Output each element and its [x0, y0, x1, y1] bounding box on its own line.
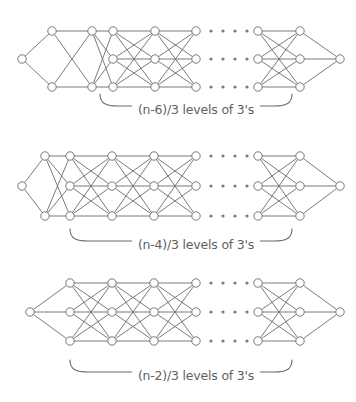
graph-edge: [22, 156, 45, 186]
ellipsis-dot: [209, 310, 212, 313]
graph-node: [296, 308, 304, 316]
graph-node: [192, 279, 200, 287]
diagram-3-caption: (n-2)/3 levels of 3's: [138, 368, 254, 383]
graph-node: [296, 27, 304, 35]
graph-node: [254, 55, 262, 63]
graph-node: [150, 212, 158, 220]
graph-node: [88, 27, 96, 35]
graph-edge: [92, 31, 113, 59]
graph-node: [41, 212, 49, 220]
graph-node: [66, 308, 74, 316]
ellipsis-dot: [233, 214, 236, 217]
graph-node: [108, 152, 116, 160]
graph-node: [296, 83, 304, 91]
graph-node: [48, 83, 56, 91]
ellipsis-dot: [209, 281, 212, 284]
graph-node: [66, 152, 74, 160]
ellipsis-dot: [245, 29, 248, 32]
ellipsis-dot: [233, 281, 236, 284]
graph-node: [296, 337, 304, 345]
graph-node: [192, 212, 200, 220]
graph-edge: [300, 59, 340, 87]
ellipsis-dot: [233, 57, 236, 60]
ellipsis-dot: [233, 85, 236, 88]
diagram-3-ellipsis: [209, 281, 248, 342]
graph-edge: [45, 186, 70, 216]
graph-node: [254, 212, 262, 220]
ellipsis-dot: [221, 154, 224, 157]
ellipsis-dot: [245, 57, 248, 60]
graph-node: [108, 337, 116, 345]
ellipsis-dot: [245, 214, 248, 217]
ellipsis-dot: [209, 184, 212, 187]
graph-node: [254, 182, 262, 190]
graph-edge: [92, 59, 113, 87]
ellipsis-dot: [245, 339, 248, 342]
ellipsis-dot: [233, 310, 236, 313]
graph-node: [296, 279, 304, 287]
graph-edge: [300, 312, 340, 341]
graph-edge: [300, 31, 340, 59]
graph-node: [88, 83, 96, 91]
ellipsis-dot: [209, 339, 212, 342]
graph-node: [108, 279, 116, 287]
graph-edge: [22, 186, 45, 216]
graph-edge: [30, 312, 70, 341]
ellipsis-dot: [221, 85, 224, 88]
ellipsis-dot: [245, 154, 248, 157]
graph-node: [26, 308, 34, 316]
ellipsis-dot: [245, 310, 248, 313]
ellipsis-dot: [221, 57, 224, 60]
graph-family-figure: (n-6)/3 levels of 3's(n-4)/3 levels of 3…: [0, 0, 356, 402]
graph-edge: [300, 186, 340, 216]
ellipsis-dot: [245, 281, 248, 284]
graph-edge: [30, 283, 70, 312]
graph-node: [192, 55, 200, 63]
graph-node: [18, 182, 26, 190]
diagram-2-ellipsis: [209, 154, 248, 217]
graph-node: [151, 83, 159, 91]
diagram-3-edges: [30, 283, 340, 341]
graph-node: [150, 337, 158, 345]
graph-node: [150, 152, 158, 160]
graph-node: [192, 337, 200, 345]
graph-node: [254, 279, 262, 287]
ellipsis-dot: [209, 154, 212, 157]
graph-edge: [300, 283, 340, 312]
diagram-1-ellipsis: [209, 29, 248, 88]
graph-node: [108, 212, 116, 220]
graph-node: [336, 182, 344, 190]
diagram-2-caption: (n-4)/3 levels of 3's: [138, 237, 254, 252]
graph-node: [150, 279, 158, 287]
ellipsis-dot: [233, 184, 236, 187]
ellipsis-dot: [209, 214, 212, 217]
graph-node: [296, 212, 304, 220]
graph-node: [254, 83, 262, 91]
graph-node: [48, 27, 56, 35]
ellipsis-dot: [209, 85, 212, 88]
graph-node: [66, 182, 74, 190]
figure-root: (n-6)/3 levels of 3's(n-4)/3 levels of 3…: [0, 0, 356, 402]
graph-edge: [22, 59, 52, 87]
ellipsis-dot: [221, 184, 224, 187]
graph-edge: [45, 156, 70, 186]
graph-node: [109, 83, 117, 91]
graph-node: [192, 308, 200, 316]
graph-node: [151, 55, 159, 63]
graph-node: [109, 55, 117, 63]
graph-node: [254, 337, 262, 345]
graph-node: [18, 55, 26, 63]
graph-node: [41, 152, 49, 160]
graph-node: [66, 337, 74, 345]
graph-node: [66, 279, 74, 287]
graph-node: [254, 308, 262, 316]
ellipsis-dot: [209, 29, 212, 32]
graph-node: [66, 212, 74, 220]
graph-node: [192, 83, 200, 91]
graph-node: [336, 308, 344, 316]
ellipsis-dot: [245, 184, 248, 187]
ellipsis-dot: [221, 281, 224, 284]
graph-node: [192, 27, 200, 35]
graph-node: [254, 27, 262, 35]
diagram-3: (n-2)/3 levels of 3's: [26, 279, 344, 385]
